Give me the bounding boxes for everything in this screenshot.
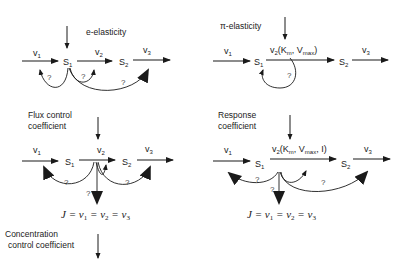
panel-e-elasticity: e-elasticity v1 S1 v2 S2 v3 ? ? ? [22,26,170,90]
label-v2: v2 [97,145,106,156]
question-mark: ? [86,189,91,198]
label-s1: S1 [255,159,265,170]
question-mark: ? [255,175,260,184]
question-mark: ? [47,73,52,82]
label-s2: S2 [119,57,129,68]
label-v3: v3 [364,144,373,155]
label-s2: S2 [341,159,351,170]
flux-equation: J = v1 = v2 = v3 [247,208,316,222]
label-v1: v1 [224,46,233,57]
effect-arrow-to-v1 [229,172,278,183]
question-mark: ? [270,185,275,194]
label-v2: v2 [95,47,104,58]
label-v3: v3 [362,45,371,56]
label-v1: v1 [224,145,233,156]
panel-title: e-elasticity [86,27,127,37]
panel-pi-elasticity: π-elasticity v1 S1 v2(Km, Vmax) S2 v3 ? [213,17,388,88]
label-v1: v1 [33,48,42,59]
effect-arrow-to-v1 [40,68,68,87]
question-mark: ? [125,178,130,187]
flux-equation: J = v1 = v2 = v3 [61,208,130,222]
label-v3: v3 [145,144,154,155]
panel-title: π-elasticity [220,21,262,31]
label-s2: S2 [122,157,132,168]
panel-title-line1: Flux control [28,110,72,120]
label-s1: S1 [63,57,73,68]
label-v2-params: v2(Km, Vmax, I) [272,144,327,155]
panel-title-line1: Response [218,110,257,120]
label-s1: S1 [65,157,75,168]
question-mark: ? [64,178,69,187]
label-v1: v1 [33,145,42,156]
label-v3: v3 [143,45,152,56]
panel-concentration-control-coefficient: Concentration control coefficient [5,229,98,258]
panel-title-line2: coefficient [218,121,257,131]
question-mark: ? [81,72,86,81]
effect-arrow-to-v2 [96,162,106,174]
panel-title-line2: coefficient [28,121,67,131]
label-s1: S1 [254,57,264,68]
label-s2: S2 [339,57,349,68]
mca-diagram: e-elasticity v1 S1 v2 S2 v3 ? ? ? π-elas… [0,0,407,265]
panel-title-line2: control coefficient [8,240,75,250]
panel-title-line1: Concentration [5,229,58,239]
question-mark: ? [321,178,326,187]
question-mark: ? [121,78,126,87]
question-mark: ? [287,71,292,80]
panel-response-coefficient: Response coefficient v1 S1 v2(Km, Vmax, … [213,110,390,222]
panel-flux-control-coefficient: Flux control coefficient v1 S1 v2 S2 v3 … [22,110,173,222]
label-v2-params: v2(Km, Vmax) [270,45,317,56]
